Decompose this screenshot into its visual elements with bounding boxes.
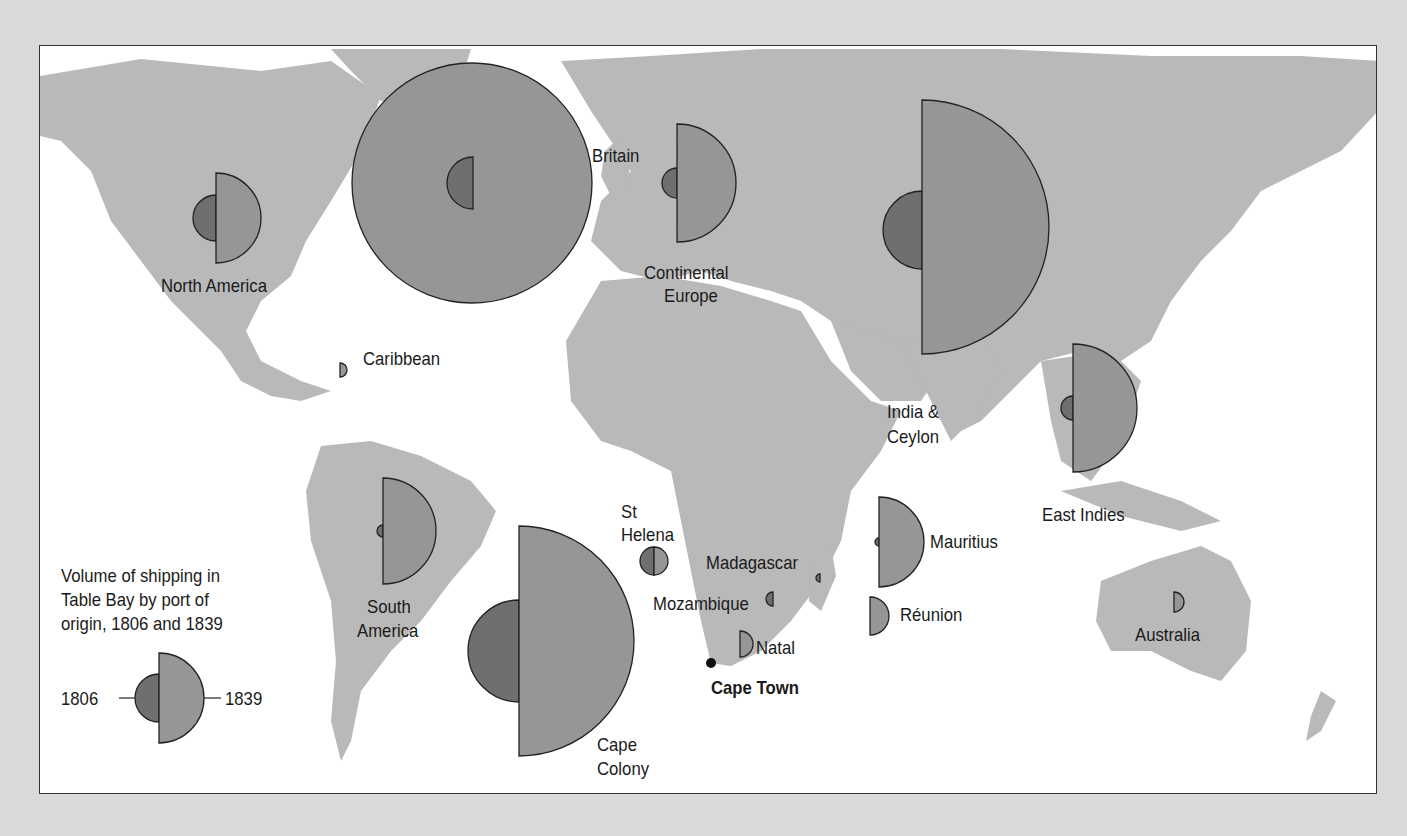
- label-east-indies: East Indies: [1042, 504, 1125, 525]
- legend-symbol: [119, 653, 221, 743]
- label-mauritius: Mauritius: [930, 531, 998, 552]
- symbol-madagascar: [816, 574, 820, 582]
- map-frame: North America Britain Continental Europe…: [39, 45, 1377, 794]
- world-map: [40, 46, 1377, 794]
- symbol-caribbean: [340, 363, 347, 377]
- label-caribbean: Caribbean: [363, 348, 440, 369]
- legend-title-line-3: origin, 1806 and 1839: [61, 613, 223, 634]
- legend-title-line-2: Table Bay by port of: [61, 589, 209, 610]
- label-continental-europe-1: Continental: [644, 262, 729, 283]
- label-continental-europe-2: Europe: [664, 285, 718, 306]
- label-britain: Britain: [592, 145, 639, 166]
- label-reunion: Réunion: [900, 604, 962, 625]
- label-cape-town: Cape Town: [711, 677, 799, 698]
- label-india-1: India &: [887, 401, 939, 422]
- legend-1806-label: 1806: [61, 688, 98, 709]
- label-australia: Australia: [1135, 624, 1200, 645]
- legend-1839-label: 1839: [225, 688, 262, 709]
- label-south-america-2: America: [357, 620, 418, 641]
- symbol-britain: [352, 63, 592, 303]
- symbol-east-indies: [1061, 344, 1137, 472]
- label-madagascar: Madagascar: [706, 552, 798, 573]
- label-natal: Natal: [756, 637, 795, 658]
- legend-title-line-1: Volume of shipping in: [61, 565, 220, 586]
- label-mozambique: Mozambique: [653, 593, 749, 614]
- symbol-st-helena: [640, 547, 668, 575]
- label-india-2: Ceylon: [887, 426, 939, 447]
- cape-town-marker: [706, 658, 716, 668]
- symbol-cape-colony: [468, 526, 634, 756]
- symbol-reunion: [870, 597, 889, 635]
- label-st-helena-2: Helena: [621, 524, 674, 545]
- label-st-helena-1: St: [621, 501, 637, 522]
- label-north-america: North America: [161, 275, 267, 296]
- label-cape-colony-1: Cape: [597, 734, 637, 755]
- label-south-america-1: South: [367, 596, 411, 617]
- label-cape-colony-2: Colony: [597, 758, 649, 779]
- symbol-mauritius: [875, 497, 924, 587]
